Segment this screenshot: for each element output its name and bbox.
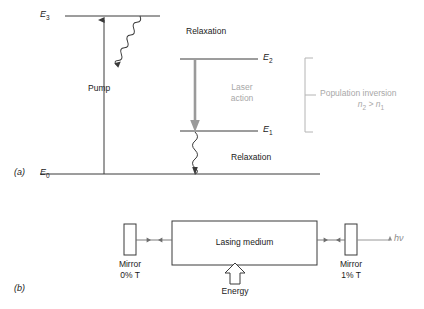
laser-action-line2: action [231,93,254,103]
beam-right-arrow-right [324,238,328,243]
beam-left-arrow-right [147,238,151,243]
relaxation-top-label: Relaxation [186,26,226,36]
panel-a-tag: (a) [14,167,25,177]
energy-level-label-e0: E0 [40,167,50,179]
beam-left-arrow-left [158,238,162,243]
relaxation-wavy-arrow-top [114,13,141,68]
output-photon-label: hν [394,233,404,243]
energy-label: Energy [210,286,260,296]
right-mirror-line1: Mirror [340,259,362,269]
population-inversion-text: Population inversion [320,88,397,98]
population-inversion-label: Population inversion n2 > n1 [320,88,422,113]
left-mirror [124,224,136,255]
right-mirror-line2: 1% T [341,270,361,280]
laser-action-arrowhead [190,120,200,132]
laser-energy-level-figure: E3 E2 E1 E0 (a) Pump Relaxation Relaxati… [0,0,424,309]
pump-label: Pump [88,83,110,93]
energy-level-label-e2: E2 [263,52,273,64]
left-mirror-line1: Mirror [119,259,141,269]
right-mirror-label: Mirror 1% T [326,259,376,281]
left-mirror-line2: 0% T [120,270,140,280]
energy-level-label-e3: E3 [40,9,50,21]
left-mirror-label: Mirror 0% T [105,259,155,281]
energy-level-label-e1: E1 [263,124,273,136]
panel-b-tag: (b) [14,283,25,293]
laser-action-line1: Laser [231,82,252,92]
energy-hollow-arrow [225,263,245,284]
population-inversion-condition: n2 > n1 [320,99,422,113]
laser-action-label: Laser action [221,82,263,104]
right-mirror [345,224,357,255]
lasing-medium-label: Lasing medium [172,237,317,247]
relaxation-bottom-label: Relaxation [231,152,271,162]
beam-right-arrow-left [336,238,340,243]
